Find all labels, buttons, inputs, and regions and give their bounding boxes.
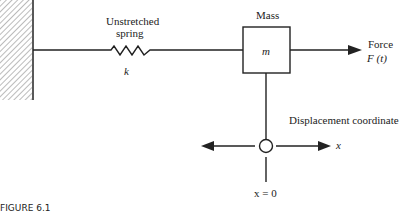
force-label-line2: F (t): [366, 52, 387, 65]
spring-mass-diagram: Unstretched spring k Mass m Force F (t) …: [0, 0, 402, 213]
origin-marker: [260, 140, 273, 153]
mass-symbol-label: m: [262, 45, 270, 57]
spring-label-line1: Unstretched: [106, 15, 160, 27]
displacement-label: Displacement coordinate: [289, 114, 399, 126]
figure-caption: FIGURE 6.1: [0, 203, 51, 213]
axis-symbol-label: x: [335, 139, 341, 151]
force-label-line1: Force: [368, 38, 393, 50]
fixed-wall: [0, 0, 33, 100]
mass-title-label: Mass: [256, 9, 279, 21]
spring-constant-label: k: [124, 65, 130, 77]
origin-label: x = 0: [254, 187, 277, 199]
spring-label-line2: spring: [116, 27, 144, 39]
force-arrow: [290, 45, 362, 55]
spring: [33, 46, 243, 55]
